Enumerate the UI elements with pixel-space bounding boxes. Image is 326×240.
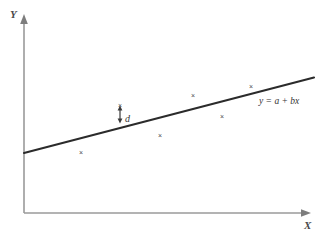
residual-annotation: d	[118, 106, 131, 125]
diagram-canvas: Y X y = a + bx × × × × × × d	[0, 0, 326, 240]
data-points: × × × × × ×	[79, 83, 253, 156]
residual-arrow-down-icon	[118, 119, 123, 124]
data-point-marker: ×	[220, 113, 224, 120]
residual-label: d	[125, 113, 131, 124]
data-point-marker: ×	[249, 83, 253, 90]
data-point-marker: ×	[158, 132, 162, 139]
data-point-marker: ×	[79, 149, 83, 156]
y-axis-arrow-icon	[20, 14, 28, 24]
x-axis	[24, 209, 311, 217]
regression-equation-label: y = a + bx	[258, 96, 300, 106]
data-point-marker: ×	[191, 92, 195, 99]
x-axis-arrow-icon	[301, 209, 311, 217]
regression-diagram: Y X y = a + bx × × × × × × d	[0, 0, 326, 240]
x-axis-label: X	[303, 219, 312, 231]
y-axis-label: Y	[10, 8, 18, 20]
y-axis	[20, 14, 28, 213]
regression-line	[24, 78, 314, 154]
